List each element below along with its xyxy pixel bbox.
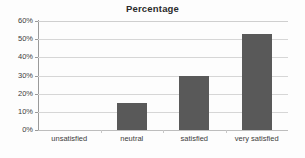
y-axis-tick-mark: [35, 112, 38, 113]
x-axis-tick-mark: [226, 130, 227, 133]
y-axis-tick-label: 60%: [3, 16, 33, 25]
x-axis-tick-mark: [101, 130, 102, 133]
y-axis-tick-mark: [35, 76, 38, 77]
x-axis-category-label: satisfied: [163, 134, 226, 143]
x-axis-category-label: very satisfied: [226, 134, 289, 143]
y-axis-tick-label: 10%: [3, 107, 33, 116]
bar-chart: Percentage 0%10%20%30%40%50%60% unsatisf…: [0, 0, 305, 158]
y-axis-tick-label: 40%: [3, 52, 33, 61]
bar: [242, 34, 272, 130]
y-axis-tick-mark: [35, 57, 38, 58]
y-axis-tick-label: 30%: [3, 71, 33, 80]
y-axis-tick-label: 50%: [3, 34, 33, 43]
y-axis-tick-mark: [35, 94, 38, 95]
x-axis-category-label: unsatisfied: [38, 134, 101, 143]
y-axis-tick-label: 20%: [3, 89, 33, 98]
y-axis-tick-mark: [35, 39, 38, 40]
y-axis-tick-mark: [35, 130, 38, 131]
chart-title: Percentage: [0, 3, 305, 14]
y-axis-tick-mark: [35, 21, 38, 22]
y-axis-tick-label: 0%: [3, 125, 33, 134]
bar: [117, 103, 147, 130]
gridline: [38, 21, 288, 22]
y-axis-tick-labels: 0%10%20%30%40%50%60%: [0, 0, 33, 158]
bar: [179, 76, 209, 130]
x-axis-tick-mark: [163, 130, 164, 133]
x-axis-category-label: neutral: [101, 134, 164, 143]
plot-area: [38, 21, 288, 130]
